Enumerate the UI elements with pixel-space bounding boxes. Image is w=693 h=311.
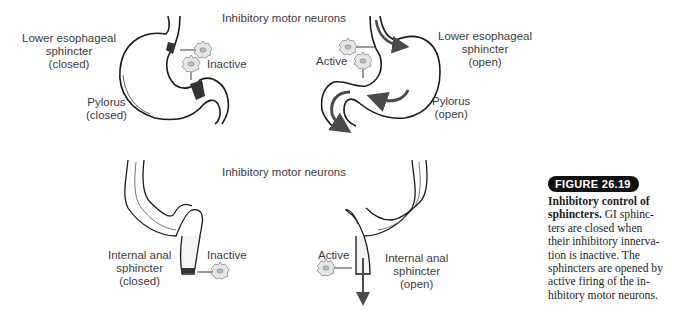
- pylorus-open-label: Pylorus (open): [432, 95, 470, 121]
- pylorus-sphincter-closed: [190, 80, 205, 100]
- les-open-label: Lower esophageal sphincter (open): [438, 30, 532, 69]
- anal-sphincter-closed-label: Internal anal sphincter (closed): [108, 249, 171, 288]
- figure-caption-block: FIGURE 26.19 Inhibitory control of sphin…: [548, 174, 693, 302]
- neuron-active-icon: [339, 38, 357, 55]
- pylorus-closed-label: Pylorus (closed): [86, 96, 127, 122]
- figure-number-badge: FIGURE 26.19: [548, 176, 639, 192]
- anal-sphincter-closed: [181, 268, 195, 273]
- neuron-state-label: Active: [316, 55, 347, 68]
- les-closed-label: Lower esophageal sphincter (closed): [22, 32, 116, 71]
- top-header-label: Inhibitory motor neurons: [222, 12, 346, 25]
- flow-arrow: [376, 20, 402, 46]
- neuron-state-label: Active: [318, 249, 349, 262]
- figure-caption: Inhibitory control of sphincters. GI sph…: [548, 195, 693, 302]
- neuron-state-label: Inactive: [207, 249, 247, 262]
- flow-arrow: [332, 92, 350, 128]
- neuron-inactive-icon: [194, 41, 212, 58]
- neuron-inactive-icon: [211, 262, 229, 279]
- bottom-header-label: Inhibitory motor neurons: [222, 166, 346, 179]
- anal-sphincter-open-label: Internal anal sphincter (open): [385, 252, 448, 291]
- les-sphincter-closed: [166, 42, 176, 54]
- flow-arrow: [375, 90, 408, 101]
- neuron-state-label: Inactive: [207, 58, 247, 71]
- neuron-active-icon: [354, 52, 372, 69]
- neuron-inactive-icon: [182, 55, 200, 72]
